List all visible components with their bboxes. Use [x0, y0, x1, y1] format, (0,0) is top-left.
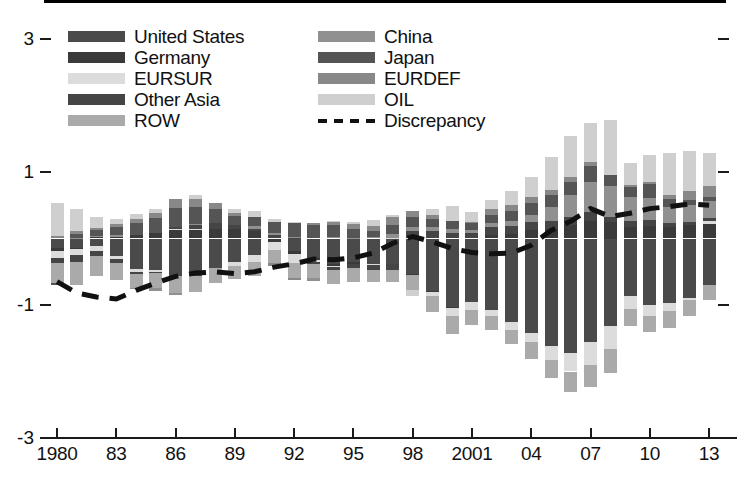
bar-segment [130, 219, 143, 223]
bar-segment [485, 239, 498, 311]
bar-segment [70, 209, 83, 231]
bar-segment [683, 300, 696, 316]
bar-segment [703, 218, 716, 221]
bar-segment [130, 288, 143, 289]
legend-item-row[interactable]: ROW [68, 110, 244, 131]
legend-item-label: Other Asia [134, 90, 220, 109]
bar-segment [426, 219, 439, 228]
bar-segment [584, 182, 597, 212]
bar-segment [248, 226, 261, 229]
bar-segment [545, 207, 558, 221]
bar-segment [169, 239, 182, 277]
bar-segment [367, 237, 380, 238]
bar-segment [643, 198, 656, 220]
x-tick-label: 86 [165, 443, 186, 465]
bar-segment [584, 162, 597, 166]
bar-segment [643, 184, 656, 198]
bar-segment [584, 239, 597, 343]
bar-segment [169, 208, 182, 227]
x-tick-mark [590, 428, 592, 438]
legend-item-oil[interactable]: OIL [318, 89, 485, 110]
bar-segment [386, 239, 399, 264]
legend-item-japan[interactable]: Japan [318, 47, 485, 68]
bar-segment [307, 264, 320, 279]
legend-item-label: EURDEF [384, 69, 460, 88]
bar-segment [663, 223, 676, 227]
bar-segment [51, 236, 64, 239]
bar-segment [624, 185, 637, 186]
bar-segment [327, 225, 340, 238]
bar-segment [110, 237, 123, 239]
y-tick-mark [40, 171, 51, 173]
bar-segment [505, 234, 518, 239]
bar-segment [525, 239, 538, 333]
bar-segment [367, 231, 380, 237]
legend-item-discrepancy[interactable]: Discrepancy [318, 110, 485, 131]
legend-item-eurdef[interactable]: EURDEF [318, 68, 485, 89]
bar-segment [70, 239, 83, 248]
bar-segment [248, 255, 261, 262]
legend-item-germany[interactable]: Germany [68, 47, 244, 68]
bar-segment [505, 211, 518, 221]
bar-segment [485, 316, 498, 330]
bar-segment [386, 234, 399, 238]
x-tick-mark [412, 428, 414, 438]
bar-segment [465, 302, 478, 309]
bar-segment [446, 229, 459, 232]
bar-segment [406, 290, 419, 296]
x-tick-label: 10 [640, 443, 661, 465]
bar-segment [288, 223, 301, 236]
legend-color-swatch [68, 52, 125, 63]
bar-segment [307, 239, 320, 258]
bar-segment [288, 237, 301, 238]
legend-item-china[interactable]: China [318, 26, 485, 47]
bar-segment [169, 229, 182, 230]
bar-segment [683, 205, 696, 222]
bar-segment [169, 293, 182, 295]
bar-segment [426, 231, 439, 239]
bar-segment [307, 225, 320, 239]
bar-segment [228, 266, 241, 279]
bar-segment [228, 229, 241, 238]
legend-item-other-asia[interactable]: Other Asia [68, 89, 244, 110]
x-tick-mark [471, 428, 473, 438]
bar-segment [386, 238, 399, 239]
bar-segment [149, 288, 162, 291]
bar-segment [288, 239, 301, 252]
x-tick-mark [234, 428, 236, 438]
bar-segment [347, 238, 360, 239]
bar-segment [347, 222, 360, 224]
bar-segment [624, 309, 637, 326]
bar-segment [268, 250, 281, 263]
bar-segment [564, 136, 577, 177]
bar-segment [228, 225, 241, 229]
bar-segment [386, 217, 399, 224]
bar-segment [683, 200, 696, 205]
bar-segment [446, 233, 459, 239]
bar-segment [268, 242, 281, 250]
legend-color-swatch [318, 52, 375, 63]
legend-item-eursur[interactable]: EURSUR [68, 68, 244, 89]
bar-segment [703, 224, 716, 239]
bar-segment [327, 221, 340, 222]
bar-segment [525, 203, 538, 215]
bar-segment [525, 342, 538, 359]
bar-segment [90, 236, 103, 237]
bar-segment [189, 224, 202, 225]
bar-segment [584, 342, 597, 365]
bar-segment [505, 191, 518, 205]
bar-segment [663, 199, 676, 208]
legend-color-swatch [68, 73, 125, 84]
bar-segment [545, 239, 558, 346]
bar-segment [485, 209, 498, 214]
bar-segment [149, 273, 162, 288]
bar-segment [604, 222, 617, 239]
bar-segment [545, 190, 558, 195]
bar-segment [90, 237, 103, 238]
bar-segment [268, 233, 281, 236]
legend-item-united-states[interactable]: United States [68, 26, 244, 47]
bar-segment [90, 256, 103, 276]
bar-segment [663, 239, 676, 304]
bar-segment [110, 224, 123, 227]
bar-segment [426, 239, 439, 292]
